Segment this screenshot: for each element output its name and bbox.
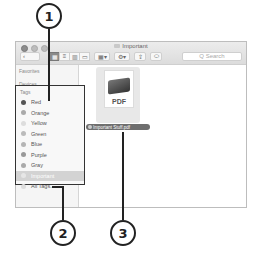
tag-color-dot-icon: [21, 110, 26, 115]
sidebar-tag-alltags[interactable]: All Tags...: [16, 181, 84, 192]
tag-color-dot-icon: [21, 142, 26, 147]
list-icon: ≡: [63, 53, 67, 59]
tag-color-dot-icon: [21, 100, 26, 105]
callout-2: 2: [50, 220, 76, 246]
callout-1: 1: [36, 3, 62, 29]
sidebar-tag-yellow[interactable]: Yellow: [16, 118, 84, 129]
arrange-button[interactable]: ▦▾: [94, 52, 110, 61]
tag-color-dot-icon: [21, 184, 26, 189]
chevron-left-icon[interactable]: ‹: [23, 53, 25, 59]
gear-icon: ⚙▾: [118, 53, 126, 60]
toolbar: ‹ ▦ ≡ ▥ ▭ ▦▾ ⚙▾ ⇪ ⬭ Q Search: [20, 51, 242, 61]
tag-label: Green: [31, 131, 46, 137]
gallery-view-button[interactable]: ▭: [79, 52, 90, 61]
cover-flow-icon: ▭: [82, 53, 88, 60]
leader-line-2-hook: [52, 186, 64, 188]
sidebar-tag-blue[interactable]: Blue: [16, 139, 84, 150]
file-browser-content: PDF Important Stuff.pdf: [79, 65, 246, 207]
tag-label: Orange: [31, 110, 49, 116]
tags-button[interactable]: ⬭: [150, 52, 162, 61]
tags-header: Tags: [16, 86, 84, 97]
tag-color-dot-icon: [21, 131, 26, 136]
tag-dot-icon: [88, 125, 92, 129]
columns-icon: ▥: [72, 53, 78, 60]
tag-label: Red: [31, 99, 41, 105]
back-forward-button[interactable]: ‹: [20, 52, 40, 61]
sidebar-section-favorites[interactable]: Favorites: [16, 65, 78, 78]
tag-color-dot-icon: [21, 152, 26, 157]
view-mode-group: ▦ ≡ ▥ ▭: [50, 52, 90, 61]
pdf-preview-art: [108, 77, 130, 94]
tag-icon: ⬭: [154, 53, 159, 60]
sidebar-tag-orange[interactable]: Orange: [16, 108, 84, 119]
sidebar-tag-gray[interactable]: Gray: [16, 160, 84, 171]
sidebar-tag-red[interactable]: Red: [16, 97, 84, 108]
sidebar-tag-purple[interactable]: Purple: [16, 150, 84, 161]
action-button[interactable]: ⚙▾: [114, 52, 130, 61]
sidebar-tag-important[interactable]: Important: [16, 171, 84, 182]
grid-icon: ▦: [52, 53, 58, 60]
arrange-icon: ▦▾: [98, 53, 107, 60]
tag-color-dot-icon: [21, 163, 26, 168]
search-field[interactable]: Q Search: [182, 52, 242, 61]
tags-section-highlight: Tags RedOrangeYellowGreenBluePurpleGrayI…: [15, 85, 85, 185]
tag-label: Gray: [31, 162, 43, 168]
tag-list: RedOrangeYellowGreenBluePurpleGrayImport…: [16, 97, 84, 192]
leader-line-3: [122, 132, 124, 220]
share-icon: ⇪: [138, 53, 143, 60]
leader-line-1: [48, 29, 50, 101]
tag-color-dot-icon: [21, 121, 26, 126]
tag-label: Important: [31, 173, 54, 179]
tag-label: Blue: [31, 141, 42, 147]
search-placeholder: Q Search: [199, 53, 224, 59]
tag-label: Yellow: [31, 120, 47, 126]
pdf-file-icon: PDF: [104, 70, 134, 108]
file-name-label[interactable]: Important Stuff.pdf: [86, 124, 150, 130]
file-item[interactable]: PDF: [96, 67, 140, 123]
title-bar: Important ‹ ▦ ≡ ▥ ▭ ▦▾ ⚙▾ ⇪ ⬭ Q Search: [16, 42, 246, 65]
folder-icon: [114, 44, 120, 48]
leader-line-2: [62, 186, 64, 220]
window-title: Important: [16, 43, 246, 49]
callout-3: 3: [110, 220, 136, 246]
tag-color-dot-icon: [21, 173, 26, 178]
share-button[interactable]: ⇪: [134, 52, 146, 61]
pdf-type-label: PDF: [105, 98, 133, 105]
tag-label: Purple: [31, 152, 47, 158]
sidebar-tag-green[interactable]: Green: [16, 129, 84, 140]
